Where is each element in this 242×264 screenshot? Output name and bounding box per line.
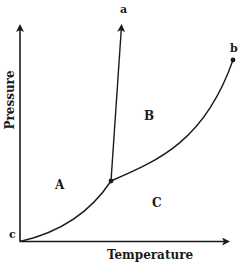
point-label-a: a bbox=[120, 3, 127, 16]
boundary-triple-point-to-b bbox=[111, 60, 233, 181]
x-axis-title: Temperature bbox=[107, 248, 194, 262]
triple-point-dot bbox=[109, 179, 114, 184]
region-label-a: A bbox=[54, 178, 65, 192]
phase-diagram: a b c A B C Temperature Pressure bbox=[0, 0, 242, 264]
region-label-c: C bbox=[152, 196, 162, 210]
point-label-c: c bbox=[9, 228, 16, 241]
point-b-dot bbox=[231, 58, 236, 63]
boundary-c-to-triple-point bbox=[20, 181, 111, 242]
region-label-b: B bbox=[144, 109, 154, 123]
y-axis-title: Pressure bbox=[3, 70, 17, 130]
point-label-b: b bbox=[230, 42, 238, 55]
boundary-triple-point-to-a bbox=[111, 26, 122, 181]
